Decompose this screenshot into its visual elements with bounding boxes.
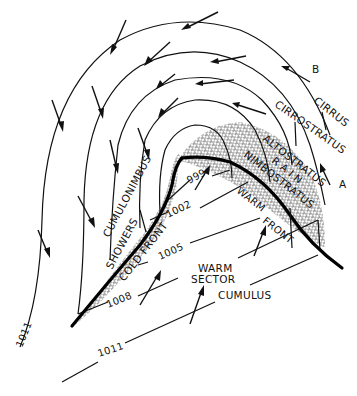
cumulus-label: CUMULUS [218, 289, 272, 301]
isobar-label-1011-left: 1011 [14, 320, 34, 349]
isobar-1011-bottom [62, 362, 98, 382]
wind-arrow-icon [144, 42, 170, 66]
point-b-label: B [312, 63, 320, 75]
pointer-altostratus [295, 122, 296, 146]
wind-arrow-icon [181, 12, 218, 30]
isobar-label-999: 999 [185, 167, 208, 186]
point-a-label: A [339, 178, 347, 190]
warm-sector-label-line2: SECTOR [191, 273, 235, 285]
rain-hatch-area [178, 122, 325, 248]
isobar-1008-warm-sector-b [138, 278, 178, 296]
pointer-cb [140, 210, 146, 232]
wind-arrow-icon [190, 285, 204, 324]
isobar-1011-bottom-c [250, 255, 318, 285]
frontal-depression-diagram: 999 1002 1005 1008 1011 1011 COLD FRONT … [0, 0, 357, 396]
wind-arrow-icon [78, 196, 95, 228]
wind-arrow-icon [232, 102, 266, 114]
isobar-1011-bottom-b [125, 302, 215, 343]
isobar-1005-warm-sector-b [190, 218, 260, 243]
wind-arrow-icon [281, 66, 310, 82]
wind-arrow-icon [158, 98, 178, 118]
isobar-label-1011-bottom: 1011 [96, 340, 125, 359]
wind-arrow-icon [52, 100, 64, 132]
isobar-label-1005: 1005 [156, 241, 185, 262]
wind-arrow-icon [92, 86, 104, 119]
wind-arrow-icon [195, 80, 234, 86]
wind-arrow-icon [254, 225, 266, 256]
diagram-canvas: 999 1002 1005 1008 1011 1011 COLD FRONT … [0, 0, 357, 396]
